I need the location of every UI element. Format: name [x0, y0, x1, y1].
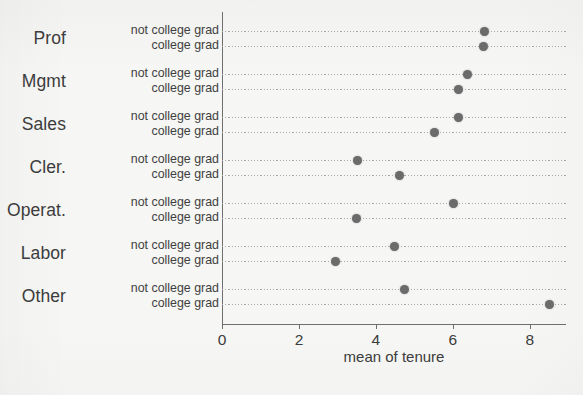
gridline	[222, 261, 566, 262]
x-axis-line	[222, 324, 566, 325]
gridline	[222, 218, 566, 219]
data-point	[353, 156, 362, 165]
series-label: not college grad	[79, 23, 219, 37]
x-axis-tick	[299, 324, 300, 329]
x-axis-tick	[376, 324, 377, 329]
x-axis-title: mean of tenure	[222, 348, 566, 365]
x-axis-tick-label: 4	[356, 331, 396, 349]
gridline	[222, 117, 566, 118]
gridline	[222, 31, 566, 32]
data-point	[400, 285, 409, 294]
x-axis-tick-label: 8	[510, 331, 550, 349]
category-label-cler: Cler.	[0, 157, 66, 178]
data-point	[463, 70, 472, 79]
series-label: college grad	[79, 253, 219, 267]
x-axis-tick-label: 2	[279, 331, 319, 349]
x-axis-tick-label: 0	[202, 331, 242, 349]
gridline	[222, 304, 566, 305]
x-axis-tick	[530, 324, 531, 329]
data-point	[352, 214, 361, 223]
category-label-operat: Operat.	[0, 200, 66, 221]
category-label-labor: Labor	[0, 243, 66, 264]
chart-page: ProfMgmtSalesCler.Operat.LaborOther not …	[0, 0, 583, 395]
series-label: not college grad	[79, 281, 219, 295]
series-label: not college grad	[79, 109, 219, 123]
data-point	[390, 242, 399, 251]
data-point	[479, 42, 488, 51]
data-point	[480, 27, 489, 36]
gridline	[222, 89, 566, 90]
data-point	[454, 85, 463, 94]
series-label: not college grad	[79, 238, 219, 252]
gridline	[222, 132, 566, 133]
x-axis-tick-label: 6	[433, 331, 473, 349]
data-point	[395, 171, 404, 180]
category-label-other: Other	[0, 286, 66, 307]
series-label: college grad	[79, 167, 219, 181]
category-label-mgmt: Mgmt	[0, 71, 66, 92]
gridline	[222, 74, 566, 75]
data-point	[430, 128, 439, 137]
series-label: college grad	[79, 124, 219, 138]
series-label: college grad	[79, 296, 219, 310]
series-label: college grad	[79, 38, 219, 52]
data-point	[331, 257, 340, 266]
series-label: not college grad	[79, 152, 219, 166]
gridline	[222, 289, 566, 290]
gridline	[222, 160, 566, 161]
series-label: college grad	[79, 81, 219, 95]
series-label: not college grad	[79, 66, 219, 80]
gridline	[222, 203, 566, 204]
x-axis-tick	[222, 324, 223, 329]
data-point	[545, 300, 554, 309]
y-axis-line	[222, 12, 223, 324]
series-label: not college grad	[79, 195, 219, 209]
category-label-sales: Sales	[0, 114, 66, 135]
gridline	[222, 175, 566, 176]
data-point	[449, 199, 458, 208]
plot-area: 02468	[222, 12, 566, 324]
series-label: college grad	[79, 210, 219, 224]
data-point	[454, 113, 463, 122]
category-label-prof: Prof	[0, 28, 66, 49]
x-axis-tick	[453, 324, 454, 329]
gridline	[222, 46, 566, 47]
